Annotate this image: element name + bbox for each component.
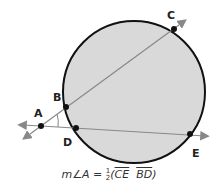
diagram-canvas: A B C D E — [0, 0, 218, 194]
point-d — [73, 125, 79, 131]
label-e: E — [192, 147, 200, 160]
label-d: D — [63, 136, 72, 149]
arc-bd: BD — [136, 168, 152, 181]
label-b: B — [53, 91, 61, 104]
circle — [63, 21, 205, 163]
formula-lhs: m∠A = — [61, 168, 102, 181]
paren-close: ) — [152, 168, 156, 181]
label-a: A — [34, 107, 43, 120]
angle-mark-icon — [57, 114, 58, 127]
point-e — [187, 131, 193, 137]
point-b — [63, 104, 69, 110]
formula: m∠A = 12(CE BD) — [0, 168, 218, 182]
label-c: C — [167, 9, 175, 22]
point-c — [171, 26, 177, 32]
arc-ce: CE — [115, 168, 130, 181]
point-a — [38, 123, 44, 129]
